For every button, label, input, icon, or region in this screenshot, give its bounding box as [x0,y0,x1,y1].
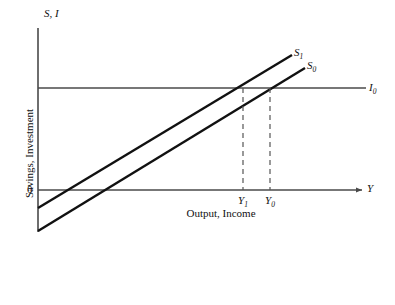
curve-label-s1-sub: 1 [300,52,304,61]
curve-label-s0-sub: 0 [313,65,317,74]
savings-investment-diagram: S, I Savings, Investment 0 Y Output, Inc… [0,0,395,305]
curve-label-s1: S1 [294,47,303,61]
horizontal-axis-arrow [356,188,362,193]
horizontal-axis-right-label: Y [367,183,373,194]
x-tick-label-y0: Y0 [265,195,275,209]
curve-label-i0-sub: 0 [373,87,377,96]
origin-label: 0 [27,184,33,195]
x-tick-label-y0-sub: 0 [271,200,275,209]
x-tick-label-y1-sub: 1 [244,200,248,209]
vertical-axis-top-label: S, I [44,8,59,19]
curve-label-s0: S0 [307,60,316,74]
curve-label-i0: I0 [369,82,376,96]
horizontal-axis-name: Output, Income [186,208,255,219]
chart-plot-area [0,0,395,305]
savings-line-s1 [38,55,292,208]
x-tick-label-y1: Y1 [238,195,248,209]
